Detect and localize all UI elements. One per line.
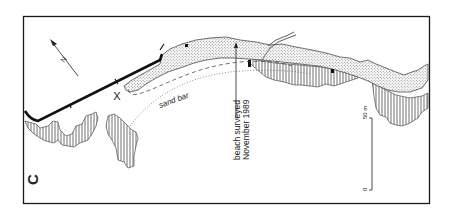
- scale-top-label: 50 m: [362, 106, 368, 119]
- hatched-area-left: [25, 112, 98, 147]
- scale-bar: 50 m 0: [362, 106, 372, 191]
- north-arrow-head: [50, 39, 57, 46]
- structure-marker: [331, 69, 334, 73]
- north-arrow: N: [50, 39, 78, 76]
- seawall-tick: [160, 44, 164, 50]
- x-marker: X: [113, 90, 121, 102]
- scale-bottom-label: 0: [362, 187, 368, 191]
- structure-marker: [185, 44, 188, 47]
- hatched-area-island: [106, 114, 138, 168]
- panel-label: C: [24, 174, 41, 185]
- sand-bar-label: sand bar: [158, 91, 191, 110]
- site-map: X sand bar beach surveyed November 1989 …: [0, 0, 450, 218]
- survey-label-line2: November 1989: [241, 99, 251, 160]
- north-label: N: [59, 55, 68, 63]
